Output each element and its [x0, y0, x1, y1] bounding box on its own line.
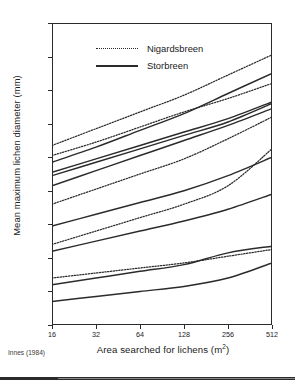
lichen-growth-chart-figure: 102030405060708090100 163264128256512 Me… — [0, 0, 295, 385]
y-tick-mark-80 — [48, 90, 52, 91]
series-line-storbreen-6 — [52, 194, 272, 251]
y-tick-mark-70 — [48, 124, 52, 125]
x-tick-mark-512 — [272, 325, 273, 329]
x-tick-label-128: 128 — [169, 331, 199, 338]
y-tick-mark-90 — [48, 57, 52, 58]
x-tick-mark-32 — [96, 325, 97, 329]
legend-item-storbreen: Storbreen — [96, 57, 203, 74]
y-tick-mark-50 — [48, 191, 52, 192]
series-line-storbreen-2 — [52, 102, 272, 172]
x-tick-mark-256 — [228, 325, 229, 329]
x-tick-label-512: 512 — [257, 331, 287, 338]
series-line-storbreen-4 — [52, 109, 272, 186]
source-citation: Innes (1984) — [8, 350, 45, 357]
x-axis-label-text: Area searched for lichens (m2) — [97, 344, 229, 355]
legend-label-nigardsbreen: Nigardsbreen — [147, 44, 203, 53]
series-line-storbreen-5 — [52, 157, 272, 226]
legend-swatch-solid-icon — [96, 62, 138, 70]
y-tick-mark-20 — [48, 291, 52, 292]
x-tick-label-64: 64 — [125, 331, 155, 338]
legend-swatch-dotted-icon — [96, 45, 138, 53]
x-tick-label-16: 16 — [37, 331, 67, 338]
x-tick-label-32: 32 — [81, 331, 111, 338]
series-line-nigardsbreen-2 — [52, 83, 272, 155]
y-tick-mark-100 — [48, 23, 52, 24]
series-line-nigardsbreen-3 — [52, 117, 272, 204]
chart-legend: Nigardsbreen Storbreen — [96, 40, 203, 74]
y-axis-label: Mean maximum lichen diameter (mm) — [11, 56, 22, 256]
x-tick-mark-16 — [52, 325, 53, 329]
y-tick-mark-60 — [48, 157, 52, 158]
legend-label-storbreen: Storbreen — [147, 61, 188, 70]
x-tick-mark-64 — [140, 325, 141, 329]
bottom-rule-secondary — [58, 378, 295, 379]
y-tick-mark-30 — [48, 258, 52, 259]
x-axis-label: Area searched for lichens (m2) — [52, 343, 274, 355]
y-tick-mark-40 — [48, 224, 52, 225]
x-tick-label-256: 256 — [213, 331, 243, 338]
series-line-nigardsbreen-5 — [52, 250, 272, 279]
x-tick-mark-128 — [184, 325, 185, 329]
legend-item-nigardsbreen: Nigardsbreen — [96, 40, 203, 57]
